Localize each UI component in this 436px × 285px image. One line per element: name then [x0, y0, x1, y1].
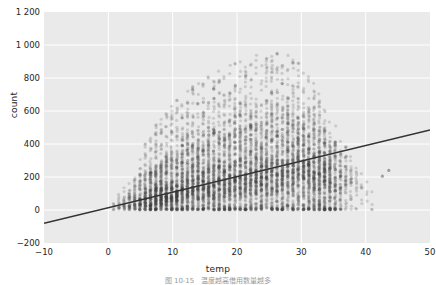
x-tick-label: 50: [410, 247, 436, 257]
x-tick-label: 0: [88, 247, 128, 257]
x-tick-label: −10: [24, 247, 64, 257]
x-tick-label: 10: [153, 247, 193, 257]
scatter-points: [112, 51, 391, 211]
x-tick-label: 20: [217, 247, 257, 257]
y-tick-label: 1 200: [0, 7, 40, 17]
y-tick-label: 200: [0, 172, 40, 182]
y-tick-label: 1 000: [0, 40, 40, 50]
x-tick-label: 40: [346, 247, 386, 257]
y-tick-label: −200: [0, 238, 40, 248]
x-axis-label: temp: [0, 264, 436, 274]
figure-caption: 图 10-15 温度越高借用数量越多: [0, 275, 436, 285]
y-tick-label: 800: [0, 73, 40, 83]
y-axis-tick-labels: −20002004006008001 0001 200: [0, 0, 40, 285]
y-tick-label: 600: [0, 106, 40, 116]
y-tick-label: 400: [0, 139, 40, 149]
x-tick-label: 30: [281, 247, 321, 257]
plot-area: [44, 12, 430, 243]
y-tick-label: 0: [0, 205, 40, 215]
plot-canvas: [44, 12, 430, 243]
x-axis-tick-labels: −1001020304050: [0, 247, 436, 261]
scatter-plot-figure: count −20002004006008001 0001 200 −10010…: [0, 0, 436, 285]
